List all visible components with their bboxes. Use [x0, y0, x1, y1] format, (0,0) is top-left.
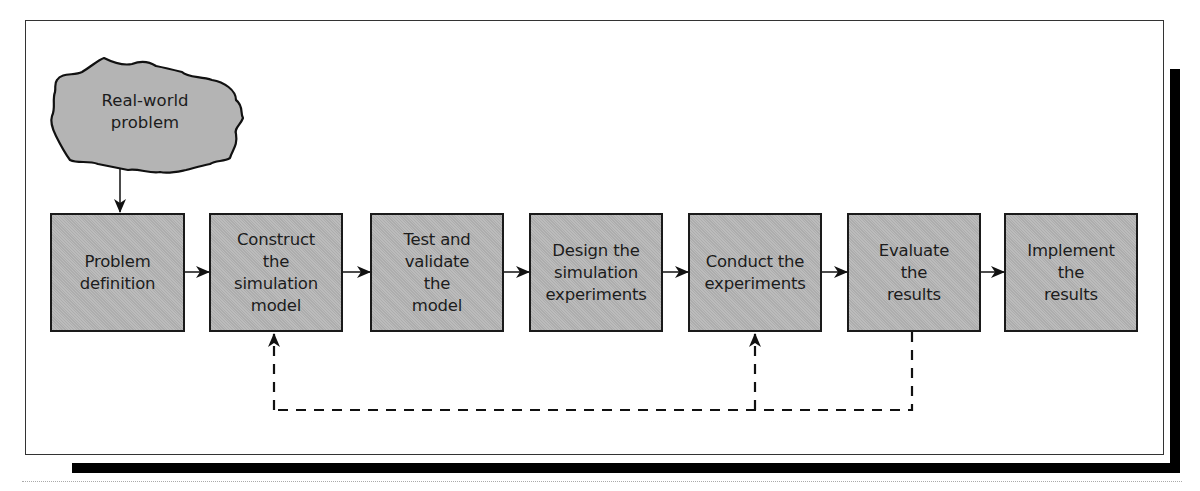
step-label: Construct the simulation model: [234, 229, 318, 317]
step-label: Design the simulation experiments: [545, 240, 646, 306]
feedback-loop: [274, 332, 912, 410]
step-test-validate: Test and validate the model: [370, 213, 504, 332]
step-construct-model: Construct the simulation model: [209, 213, 343, 332]
step-label: Problem definition: [80, 251, 156, 295]
step-evaluate-results: Evaluate the results: [847, 213, 981, 332]
step-problem-definition: Problem definition: [50, 213, 185, 332]
step-design-experiments: Design the simulation experiments: [529, 213, 663, 332]
step-label: Implement the results: [1027, 240, 1115, 306]
step-label: Conduct the experiments: [704, 251, 805, 295]
step-conduct-experiments: Conduct the experiments: [688, 213, 822, 332]
real-world-problem-label: Real-world problem: [70, 90, 220, 134]
step-label: Evaluate the results: [879, 240, 949, 306]
step-label: Test and validate the model: [403, 229, 470, 317]
step-implement-results: Implement the results: [1004, 213, 1138, 332]
